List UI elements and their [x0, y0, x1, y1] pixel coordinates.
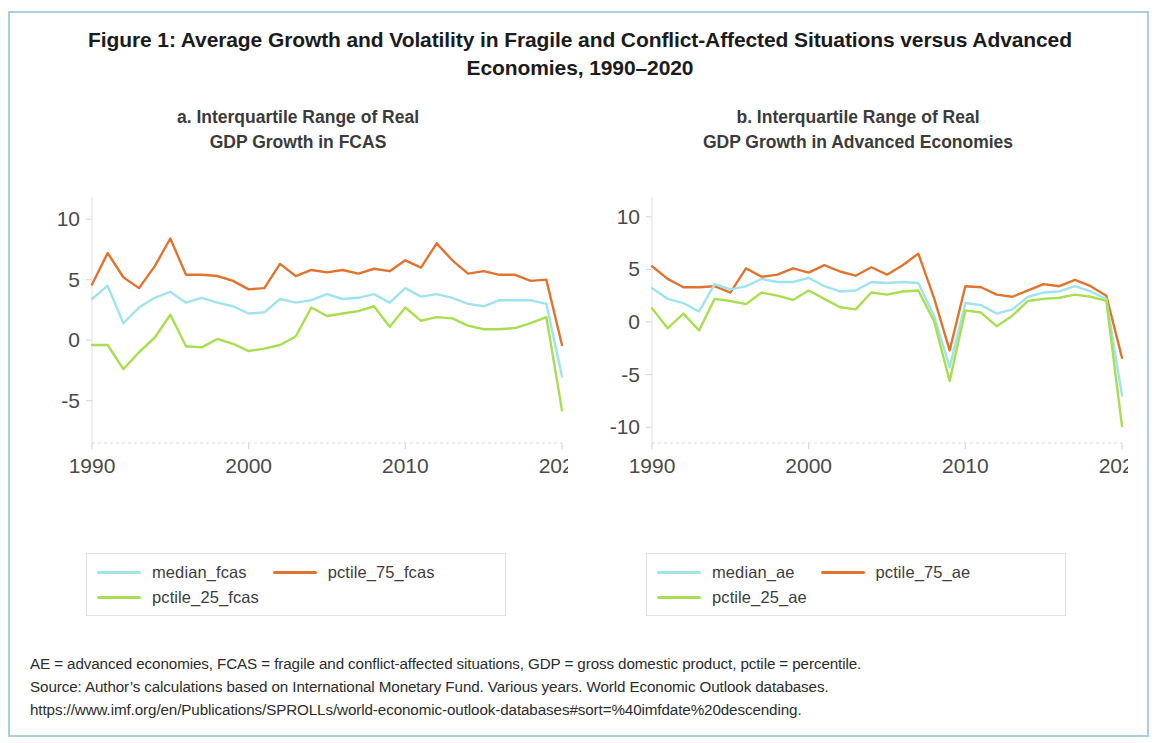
- panel-a: a. Interquartile Range of Real GDP Growt…: [28, 105, 568, 645]
- legend-label-pctile-25-fcas: pctile_25_fcas: [152, 588, 259, 607]
- legend-item-median-ae[interactable]: median_ae: [657, 563, 795, 582]
- panel-b-plot: 1050-5-101990200020102020: [588, 185, 1128, 475]
- legend-label-median-ae: median_ae: [712, 563, 795, 582]
- panel-a-plot: 1050-51990200020102020: [28, 185, 568, 475]
- panel-a-title: a. Interquartile Range of Real GDP Growt…: [28, 105, 568, 155]
- legend-swatch-pctile-75-ae: [821, 571, 865, 574]
- y-tick-label: 0: [628, 310, 640, 333]
- notes-source: Source: Author’s calculations based on I…: [30, 675, 1130, 698]
- legend-item-pctile-25-ae[interactable]: pctile_25_ae: [657, 588, 807, 607]
- series-line-pctile_75_ae: [652, 254, 1122, 358]
- notes-url[interactable]: https://www.imf.org/en/Publications/SPRO…: [30, 698, 1130, 721]
- series-line-median_fcas: [92, 286, 562, 377]
- figure-container: Figure 1: Average Growth and Volatility …: [0, 0, 1157, 743]
- legend-row: median_ae pctile_75_ae: [657, 563, 1055, 582]
- legend-label-pctile-75-ae: pctile_75_ae: [876, 563, 971, 582]
- panel-a-svg: 1050-51990200020102020: [28, 185, 568, 475]
- panel-b-title-line1: b. Interquartile Range of Real: [736, 107, 979, 127]
- legend-item-pctile-75-ae[interactable]: pctile_75_ae: [821, 563, 971, 582]
- legend-swatch-median-ae: [657, 571, 701, 574]
- panel-a-title-line1: a. Interquartile Range of Real: [177, 107, 419, 127]
- panel-b-title-line2: GDP Growth in Advanced Economies: [703, 132, 1013, 152]
- panel-a-legend: median_fcas pctile_75_fcas pctile_25_fca…: [86, 553, 506, 616]
- x-tick-label: 2000: [225, 454, 272, 475]
- x-tick-label: 1990: [629, 454, 676, 475]
- y-tick-label: -5: [61, 389, 80, 412]
- x-tick-label: 2000: [785, 454, 832, 475]
- y-tick-label: 10: [617, 205, 640, 228]
- legend-swatch-pctile-75-fcas: [273, 571, 317, 574]
- y-tick-label: -5: [621, 363, 640, 386]
- x-tick-label: 2010: [382, 454, 429, 475]
- panel-b-title: b. Interquartile Range of Real GDP Growt…: [588, 105, 1128, 155]
- series-line-pctile_25_ae: [652, 290, 1122, 426]
- y-tick-label: 5: [68, 268, 80, 291]
- series-line-pctile_25_fcas: [92, 306, 562, 410]
- y-tick-label: 10: [57, 207, 80, 230]
- x-tick-label: 2020: [539, 454, 568, 475]
- legend-row: pctile_25_ae: [657, 588, 1055, 607]
- legend-swatch-median-fcas: [97, 571, 141, 574]
- panel-b: b. Interquartile Range of Real GDP Growt…: [588, 105, 1128, 645]
- panel-a-title-line2: GDP Growth in FCAS: [210, 132, 387, 152]
- legend-item-median-fcas[interactable]: median_fcas: [97, 563, 247, 582]
- legend-label-median-fcas: median_fcas: [152, 563, 247, 582]
- x-tick-label: 2020: [1099, 454, 1128, 475]
- legend-label-pctile-75-fcas: pctile_75_fcas: [328, 563, 435, 582]
- legend-row: median_fcas pctile_75_fcas: [97, 563, 495, 582]
- legend-label-pctile-25-ae: pctile_25_ae: [712, 588, 807, 607]
- x-tick-label: 2010: [942, 454, 989, 475]
- panel-b-legend: median_ae pctile_75_ae pctile_25_ae: [646, 553, 1066, 616]
- y-tick-label: 0: [68, 328, 80, 351]
- legend-swatch-pctile-25-fcas: [97, 596, 141, 599]
- legend-row: pctile_25_fcas: [97, 588, 495, 607]
- y-tick-label: 5: [628, 257, 640, 280]
- legend-item-pctile-75-fcas[interactable]: pctile_75_fcas: [273, 563, 435, 582]
- legend-item-pctile-25-fcas[interactable]: pctile_25_fcas: [97, 588, 259, 607]
- legend-swatch-pctile-25-ae: [657, 596, 701, 599]
- notes-abbreviations: AE = advanced economies, FCAS = fragile …: [30, 652, 1130, 675]
- y-tick-label: -10: [610, 415, 640, 438]
- x-tick-label: 1990: [69, 454, 116, 475]
- figure-notes: AE = advanced economies, FCAS = fragile …: [30, 652, 1130, 721]
- figure-title: Figure 1: Average Growth and Volatility …: [60, 26, 1100, 81]
- panel-b-svg: 1050-5-101990200020102020: [588, 185, 1128, 475]
